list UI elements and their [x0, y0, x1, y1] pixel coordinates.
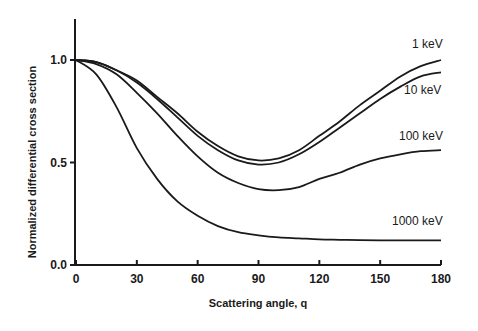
- series-label-1000-kev: 1000 keV: [392, 214, 443, 228]
- y-axis: 0.00.51.0 Normalized differential cross …: [26, 19, 75, 272]
- series-line-100-kev: [76, 60, 441, 190]
- series-line-1-kev: [76, 60, 441, 161]
- plot-area: [76, 60, 441, 240]
- x-tick-label: 0: [73, 272, 80, 286]
- x-axis: 0306090120150180 Scattering angle, q: [73, 260, 452, 309]
- x-tick-label: 60: [191, 272, 205, 286]
- series-label-1-kev: 1 keV: [412, 37, 443, 51]
- series-label-100-kev: 100 keV: [399, 129, 443, 143]
- x-tick-label: 30: [130, 272, 144, 286]
- series-line-10-kev: [76, 60, 441, 165]
- x-tick-label: 180: [431, 272, 451, 286]
- y-tick-label: 0.5: [50, 156, 67, 170]
- line-chart: 0.00.51.0 Normalized differential cross …: [0, 0, 478, 331]
- x-tick-label: 120: [309, 272, 329, 286]
- y-tick-label: 0.0: [50, 258, 67, 272]
- x-tick-label: 150: [370, 272, 390, 286]
- y-tick-label: 1.0: [50, 53, 67, 67]
- series-label-10-kev: 10 keV: [404, 83, 441, 97]
- y-axis-title: Normalized differential cross section: [26, 65, 38, 258]
- x-axis-title: Scattering angle, q: [209, 297, 307, 309]
- x-tick-label: 90: [252, 272, 266, 286]
- series-labels: 1 keV10 keV100 keV1000 keV: [392, 37, 443, 228]
